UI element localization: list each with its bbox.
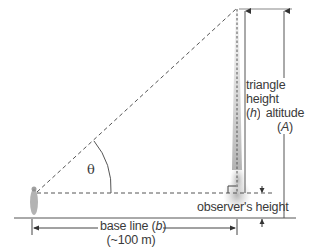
base-line-label: base line (b) (~100 m)	[100, 219, 162, 247]
angle-theta-label: θ	[87, 162, 95, 177]
altitude-label: altitude (A)	[260, 106, 310, 134]
observer-height-label: observer's height	[197, 200, 288, 214]
line-of-sight	[37, 9, 236, 192]
observer-figure	[30, 187, 38, 216]
angle-arc	[94, 141, 111, 193]
